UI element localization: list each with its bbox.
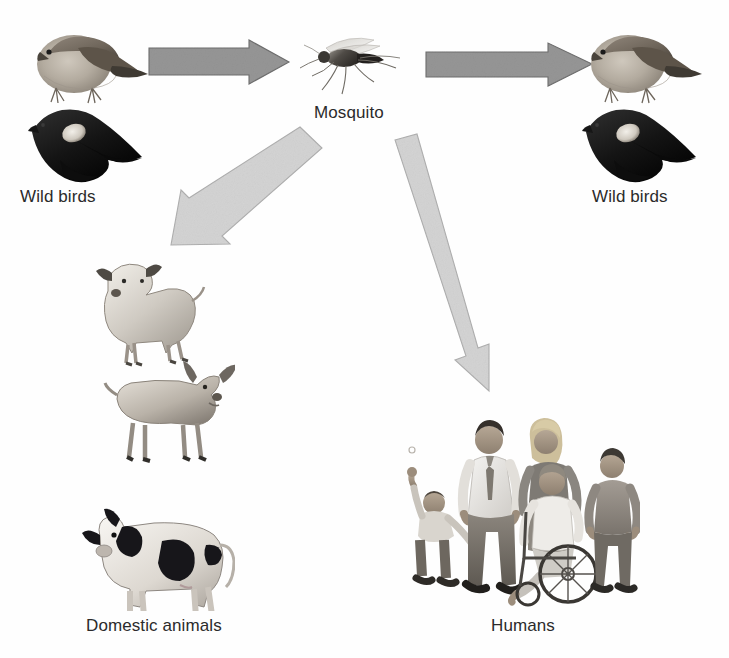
sheep-illustration: [96, 264, 204, 365]
teen-boy-illustration: [589, 448, 637, 590]
label-wild-birds-right: Wild birds: [592, 188, 668, 207]
node-domestic-animals: [60, 243, 235, 611]
adult-man-illustration: [463, 420, 520, 591]
sparrow-illustration: [591, 35, 702, 103]
node-wild-birds-left: [16, 14, 156, 184]
label-domestic-animals: Domestic animals: [86, 617, 222, 636]
arrow-birds-to-mosquito: [149, 40, 289, 84]
node-wild-birds-right: [570, 14, 710, 184]
blackbird-illustration: [582, 109, 696, 182]
diagram-canvas: Wild birds: [0, 0, 729, 658]
mosquito-illustration: [300, 38, 400, 94]
label-humans: Humans: [491, 617, 555, 636]
wild-birds-pair-icon: [570, 14, 710, 184]
humans-group-icon: [390, 408, 640, 608]
node-humans: [390, 408, 640, 608]
wild-birds-pair-icon: [16, 14, 156, 184]
arrow-mosquito-to-birds: [426, 43, 592, 86]
node-mosquito: [300, 28, 415, 100]
label-mosquito: Mosquito: [314, 104, 384, 123]
sparrow-illustration: [37, 35, 148, 103]
ball-icon: [409, 447, 415, 453]
arrow-mosquito-to-animals: [171, 127, 322, 245]
goat-illustration: [105, 361, 235, 461]
domestic-animals-icon: [60, 243, 235, 611]
label-wild-birds-left: Wild birds: [20, 188, 96, 207]
mosquito-icon: [300, 28, 415, 100]
blackbird-illustration: [28, 109, 142, 182]
arrow-mosquito-to-humans: [395, 134, 489, 391]
cow-illustration: [82, 509, 234, 611]
